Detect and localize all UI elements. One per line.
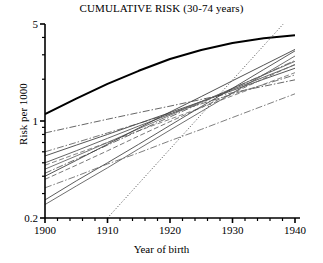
series-cohort-line-11 [45,51,295,200]
series-cohort-line-6 [45,61,295,169]
x-tick-label: 1940 [284,224,307,236]
y-tick-label: 5 [33,18,39,30]
tick-label-layer: 0.21519001910192019301940 [24,18,306,236]
x-tick-label: 1920 [159,224,182,236]
series-layer [45,11,295,218]
series-cohort-line-9 [45,64,295,179]
chart-plot-area: 0.21519001910192019301940 [0,0,323,263]
series-cohort-line-4 [45,65,295,163]
y-tick-label: 0.2 [24,212,38,224]
series-cohort-line-12 [45,56,295,205]
series-cohort-line-5 [45,73,295,166]
axes-layer [40,24,300,223]
x-tick-label: 1900 [34,224,57,236]
x-tick-label: 1910 [97,224,120,236]
chart-figure: CUMULATIVE RISK (30-74 years) Risk per 1… [0,0,323,263]
series-cohort-line-13-steep-dotted [108,11,296,218]
y-tick-label: 1 [33,115,39,127]
x-tick-label: 1930 [222,224,245,236]
series-overall-cumulative-risk [45,35,295,114]
